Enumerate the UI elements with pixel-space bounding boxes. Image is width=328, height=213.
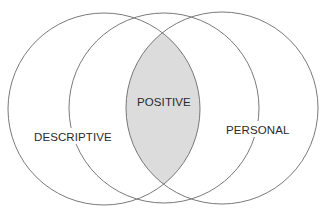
positive-label: POSITIVE [137, 96, 191, 108]
positive-intersection-region [126, 12, 318, 204]
descriptive-label: DESCRIPTIVE [34, 131, 112, 143]
venn-diagram: DESCRIPTIVE POSITIVE PERSONAL [0, 0, 328, 213]
personal-label: PERSONAL [226, 124, 290, 136]
